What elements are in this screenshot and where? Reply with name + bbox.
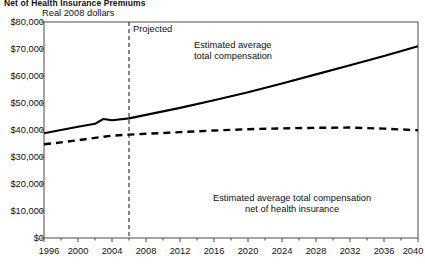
annotation-net-line-2: net of health insurance bbox=[213, 204, 371, 215]
annotation-total-compensation: Estimated average total compensation bbox=[194, 40, 272, 62]
x-axis-tick-label: 2004 bbox=[102, 246, 123, 256]
x-axis-tick-label: 1996 bbox=[39, 246, 60, 256]
annotation-net-line-1: Estimated average total compensation bbox=[213, 193, 371, 204]
x-axis-tick-label: 2024 bbox=[272, 246, 293, 256]
x-axis-tick-label: 2036 bbox=[374, 246, 395, 256]
x-axis-tick-label: 2008 bbox=[136, 246, 157, 256]
x-axis-tick-label: 2040 bbox=[403, 246, 424, 256]
x-axis-tick-label: 2000 bbox=[68, 246, 89, 256]
x-axis-tick-label: 2012 bbox=[170, 246, 191, 256]
x-axis-tick-label: 2028 bbox=[306, 246, 327, 256]
annotation-total-line-2: total compensation bbox=[194, 51, 272, 62]
series-line-2 bbox=[44, 128, 418, 145]
x-axis-tick-label: 2020 bbox=[238, 246, 259, 256]
annotation-total-line-1: Estimated average bbox=[194, 40, 272, 51]
x-axis-tick-label: 2032 bbox=[340, 246, 361, 256]
x-axis-tick-label: 2016 bbox=[204, 246, 225, 256]
annotation-projected: Projected bbox=[133, 24, 172, 35]
annotation-net-of-health-insurance: Estimated average total compensation net… bbox=[213, 193, 371, 215]
chart-figure: Net of Health Insurance Premiums Real 20… bbox=[0, 0, 425, 264]
